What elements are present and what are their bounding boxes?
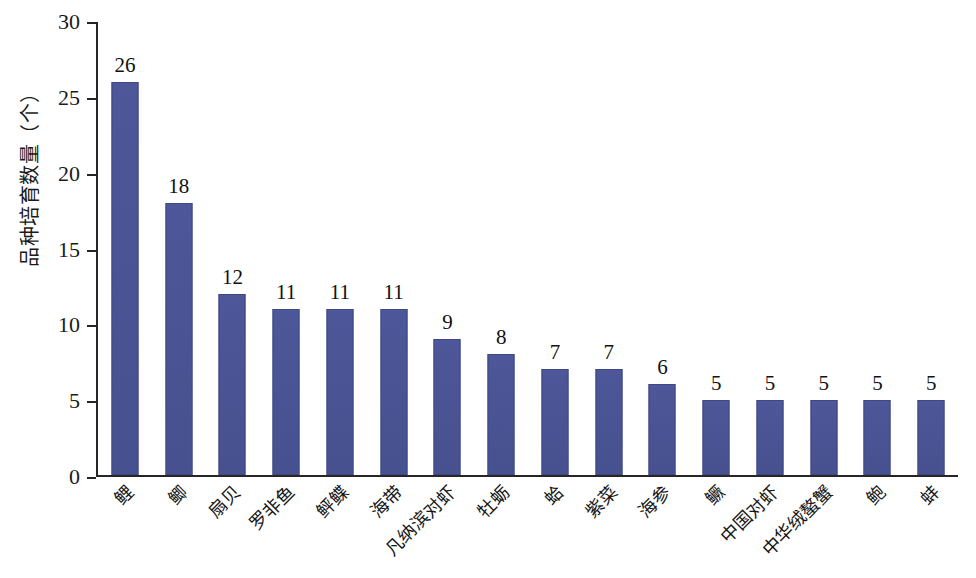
bar-slot: 7 (528, 22, 582, 475)
bar-slot: 5 (851, 22, 905, 475)
bar-value-label: 6 (657, 357, 668, 378)
x-tick-label-text: 鲫 (164, 482, 191, 509)
x-tick-label-text: 牡蛎 (474, 482, 514, 522)
x-tick-label-text: 鲤 (110, 482, 137, 509)
y-tick-mark (87, 250, 96, 252)
bar-slot: 12 (206, 22, 260, 475)
bar (380, 309, 407, 475)
bar-slot: 6 (636, 22, 690, 475)
bars-layer: 2618121111119877655555 (98, 22, 958, 475)
x-tick-label-text: 扇贝 (205, 482, 245, 522)
y-axis-title: 品种培育数量（个） (14, 35, 43, 315)
bar-value-label: 5 (818, 373, 829, 394)
bar-value-label: 12 (222, 267, 243, 288)
bar (703, 400, 730, 476)
bar-value-label: 11 (276, 282, 296, 303)
x-label-slot: 蛤 (528, 482, 582, 578)
bar-value-label: 5 (926, 373, 937, 394)
bar (326, 309, 353, 475)
y-tick-mark (87, 98, 96, 100)
x-tick-label-text: 鲆鲽 (312, 482, 352, 522)
x-label-slot: 罗非鱼 (259, 482, 313, 578)
bar-value-label: 11 (330, 282, 350, 303)
y-tick-mark (87, 401, 96, 403)
bar-slot: 5 (743, 22, 797, 475)
x-tick-label-text: 蚌 (916, 482, 943, 509)
y-tick-mark (87, 22, 96, 24)
x-label-slot: 鲍 (851, 482, 905, 578)
bar-slot: 9 (421, 22, 475, 475)
bar-value-label: 9 (442, 312, 453, 333)
x-label-slot: 鲤 (98, 482, 152, 578)
bar (434, 339, 461, 475)
x-label-slot: 扇贝 (206, 482, 260, 578)
y-tick-label: 0 (69, 466, 80, 488)
bar-value-label: 5 (711, 373, 722, 394)
bar-slot: 8 (474, 22, 528, 475)
bar-slot: 5 (904, 22, 958, 475)
bar-slot: 11 (259, 22, 313, 475)
bar (918, 400, 945, 476)
y-tick-label: 30 (58, 11, 80, 33)
bar-value-label: 5 (765, 373, 776, 394)
y-tick-label: 25 (58, 87, 80, 109)
bar (649, 384, 676, 475)
bar (273, 309, 300, 475)
x-tick-label-text: 紫菜 (581, 482, 621, 522)
x-label-slot: 中华绒螯蟹 (797, 482, 851, 578)
bar-slot: 5 (797, 22, 851, 475)
x-label-slot: 蚌 (904, 482, 958, 578)
bar-value-label: 5 (872, 373, 883, 394)
x-label-slot: 凡纳滨对虾 (421, 482, 475, 578)
plot-area: 051015202530 2618121111119877655555 (96, 22, 958, 477)
bar-slot: 26 (98, 22, 152, 475)
y-tick-label: 15 (58, 239, 80, 261)
y-tick-mark (87, 477, 96, 479)
bar (111, 82, 138, 475)
bar-value-label: 26 (114, 55, 135, 76)
bar-slot: 11 (367, 22, 421, 475)
bar (541, 369, 568, 475)
bar-slot: 11 (313, 22, 367, 475)
bar (756, 400, 783, 476)
bar-slot: 5 (689, 22, 743, 475)
x-label-slot: 牡蛎 (474, 482, 528, 578)
x-tick-label-text: 鳜 (701, 482, 728, 509)
bar-value-label: 18 (168, 176, 189, 197)
x-tick-label-text: 蛤 (540, 482, 567, 509)
bar-slot: 7 (582, 22, 636, 475)
bar-value-label: 7 (550, 342, 561, 363)
x-tick-label-text: 海带 (366, 482, 406, 522)
x-label-slot: 紫菜 (582, 482, 636, 578)
y-tick-label: 5 (69, 390, 80, 412)
x-label-slot: 鲫 (152, 482, 206, 578)
x-label-slot: 鲆鲽 (313, 482, 367, 578)
bar (165, 203, 192, 475)
x-axis-labels: 鲤鲫扇贝罗非鱼鲆鲽海带凡纳滨对虾牡蛎蛤紫菜海参鳜中国对虾中华绒螯蟹鲍蚌 (98, 482, 958, 578)
y-tick-mark (87, 325, 96, 327)
x-label-slot: 海参 (636, 482, 690, 578)
bar-chart: 品种培育数量（个） 051015202530 26181211111198776… (0, 0, 976, 578)
y-tick-label: 10 (58, 314, 80, 336)
y-tick-label: 20 (58, 163, 80, 185)
x-tick-label-text: 海参 (635, 482, 675, 522)
bar-slot: 18 (152, 22, 206, 475)
bar-value-label: 8 (496, 327, 507, 348)
bar-value-label: 11 (384, 282, 404, 303)
x-tick-label-text: 鲍 (863, 482, 890, 509)
bar (595, 369, 622, 475)
bar-value-label: 7 (603, 342, 614, 363)
bar (219, 294, 246, 475)
y-tick-mark (87, 174, 96, 176)
